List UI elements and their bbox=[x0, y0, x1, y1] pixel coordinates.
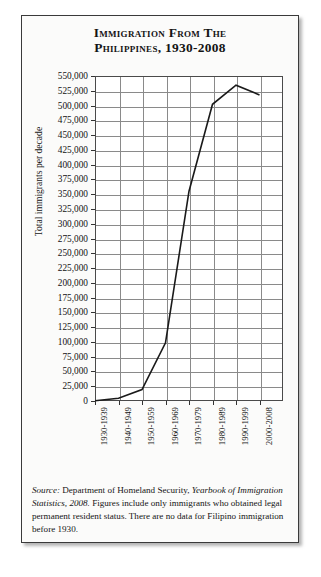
figure-panel: Immigration from the Philippines, 1930-2… bbox=[21, 15, 299, 543]
y-axis-tick-label: 200,000 bbox=[26, 278, 88, 288]
x-axis-tick-label: 1980-1989 bbox=[217, 407, 227, 445]
x-axis-tick-label: 1960-1969 bbox=[170, 407, 180, 445]
y-axis-tick-mark bbox=[91, 106, 95, 107]
y-axis-tick-mark bbox=[91, 342, 95, 343]
x-axis-ticks: 1930-19391940-19491950-19591960-19691970… bbox=[95, 401, 283, 479]
y-axis-tick-mark bbox=[91, 165, 95, 166]
x-axis-tick-label: 2000-2008 bbox=[264, 407, 274, 445]
x-axis-tick-mark bbox=[95, 401, 96, 405]
chart-title: Immigration from the Philippines, 1930-2… bbox=[22, 16, 298, 56]
y-axis-tick-mark bbox=[91, 371, 95, 372]
y-axis-tick-label: 475,000 bbox=[26, 115, 88, 125]
y-axis-tick-label: 375,000 bbox=[26, 174, 88, 184]
y-axis-tick-label: 450,000 bbox=[26, 130, 88, 140]
y-axis-tick-label: 250,000 bbox=[26, 248, 88, 258]
x-axis-tick-mark bbox=[142, 401, 143, 405]
y-axis-tick-mark bbox=[91, 401, 95, 402]
y-axis-tick-label: 25,000 bbox=[26, 381, 88, 391]
y-axis-tick-label: 0 bbox=[26, 396, 88, 406]
y-axis-tick-mark bbox=[91, 312, 95, 313]
y-axis-tick-mark bbox=[91, 194, 95, 195]
y-axis-tick-mark bbox=[91, 120, 95, 121]
source-note: Source: Department of Homeland Security,… bbox=[32, 484, 288, 536]
data-line-series bbox=[95, 76, 283, 401]
y-axis-tick-mark bbox=[91, 268, 95, 269]
y-axis-tick-mark bbox=[91, 76, 95, 77]
y-axis-tick-label: 75,000 bbox=[26, 352, 88, 362]
y-axis-tick-mark bbox=[91, 150, 95, 151]
source-agency: Department of Homeland Security, bbox=[60, 485, 192, 495]
y-axis-tick-mark bbox=[91, 327, 95, 328]
immigration-line bbox=[95, 85, 260, 400]
y-axis-tick-label: 400,000 bbox=[26, 160, 88, 170]
y-axis-tick-label: 350,000 bbox=[26, 189, 88, 199]
y-axis-tick-mark bbox=[91, 135, 95, 136]
y-axis-tick-mark bbox=[91, 179, 95, 180]
chart-title-line-2: Philippines, 1930-2008 bbox=[32, 40, 288, 55]
y-axis-tick-mark bbox=[91, 386, 95, 387]
y-axis-tick-label: 300,000 bbox=[26, 219, 88, 229]
y-axis-tick-label: 100,000 bbox=[26, 337, 88, 347]
y-axis-tick-mark bbox=[91, 253, 95, 254]
source-label: Source: bbox=[32, 485, 60, 495]
y-axis-tick-mark bbox=[91, 224, 95, 225]
y-axis-tick-mark bbox=[91, 298, 95, 299]
x-axis-tick-mark bbox=[213, 401, 214, 405]
y-axis-tick-label: 50,000 bbox=[26, 366, 88, 376]
y-axis-tick-label: 175,000 bbox=[26, 293, 88, 303]
x-axis-tick-label: 1930-1939 bbox=[99, 407, 109, 445]
y-axis-tick-mark bbox=[91, 209, 95, 210]
y-axis-tick-label: 275,000 bbox=[26, 234, 88, 244]
y-axis-tick-label: 500,000 bbox=[26, 101, 88, 111]
x-axis-tick-label: 1940-1949 bbox=[123, 407, 133, 445]
x-axis-tick-label: 1990-1999 bbox=[240, 407, 250, 445]
y-axis-tick-label: 525,000 bbox=[26, 86, 88, 96]
y-axis-tick-label: 325,000 bbox=[26, 204, 88, 214]
y-axis-tick-mark bbox=[91, 357, 95, 358]
x-axis-tick-mark bbox=[119, 401, 120, 405]
y-axis-tick-label: 125,000 bbox=[26, 322, 88, 332]
y-axis-tick-mark bbox=[91, 91, 95, 92]
y-axis-tick-label: 150,000 bbox=[26, 307, 88, 317]
y-axis-tick-mark bbox=[91, 239, 95, 240]
y-axis-tick-label: 225,000 bbox=[26, 263, 88, 273]
x-axis-tick-label: 1950-1959 bbox=[146, 407, 156, 445]
x-axis-tick-mark bbox=[260, 401, 261, 405]
x-axis-tick-label: 1970-1979 bbox=[193, 407, 203, 445]
chart-area: Total immigrants per decade 1930-1939194… bbox=[22, 68, 300, 418]
y-axis-tick-label: 550,000 bbox=[26, 71, 88, 81]
x-axis-tick-mark bbox=[166, 401, 167, 405]
x-axis-tick-mark bbox=[236, 401, 237, 405]
x-axis-tick-mark bbox=[189, 401, 190, 405]
note-divider bbox=[31, 478, 289, 479]
y-axis-tick-label: 425,000 bbox=[26, 145, 88, 155]
chart-title-line-1: Immigration from the bbox=[32, 25, 288, 40]
y-axis-tick-mark bbox=[91, 283, 95, 284]
